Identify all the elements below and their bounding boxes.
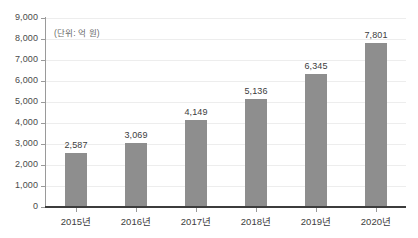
plot-area bbox=[46, 18, 406, 207]
gridline bbox=[46, 60, 406, 61]
y-axis-tick-label: 8,000 bbox=[0, 33, 38, 43]
gridline bbox=[46, 18, 406, 19]
x-axis-tick bbox=[256, 208, 257, 212]
y-axis-tick-label: 1,000 bbox=[0, 180, 38, 190]
bar bbox=[125, 143, 147, 207]
x-axis-tick bbox=[376, 208, 377, 212]
y-axis-tick bbox=[41, 123, 45, 124]
gridline bbox=[46, 123, 406, 124]
y-axis-tick bbox=[41, 39, 45, 40]
y-axis-tick bbox=[41, 207, 45, 208]
y-axis-tick-label: 4,000 bbox=[0, 117, 38, 127]
bar-value-label: 7,801 bbox=[346, 30, 406, 40]
bar bbox=[365, 43, 387, 207]
x-axis-line bbox=[45, 206, 406, 208]
y-axis-tick bbox=[41, 18, 45, 19]
gridline bbox=[46, 186, 406, 187]
bar bbox=[185, 120, 207, 207]
bar bbox=[305, 74, 327, 207]
y-axis-tick-label: 3,000 bbox=[0, 138, 38, 148]
y-axis-tick-label: 7,000 bbox=[0, 54, 38, 64]
gridline bbox=[46, 165, 406, 166]
bar bbox=[65, 153, 87, 207]
bar-chart: 01,0002,0003,0004,0005,0006,0007,0008,00… bbox=[0, 0, 418, 238]
y-axis-line bbox=[45, 17, 46, 208]
bar-value-label: 5,136 bbox=[226, 86, 286, 96]
bar-value-label: 2,587 bbox=[46, 140, 106, 150]
y-axis-tick-label: 2,000 bbox=[0, 159, 38, 169]
x-axis-tick bbox=[196, 208, 197, 212]
y-axis-tick-label: 5,000 bbox=[0, 96, 38, 106]
y-axis-tick bbox=[41, 60, 45, 61]
y-axis-tick bbox=[41, 102, 45, 103]
y-axis-tick bbox=[41, 165, 45, 166]
y-axis-tick-label: 6,000 bbox=[0, 75, 38, 85]
y-axis-tick bbox=[41, 81, 45, 82]
x-axis-tick-label: 2020년 bbox=[346, 214, 406, 228]
gridline bbox=[46, 81, 406, 82]
y-axis-tick-label: 9,000 bbox=[0, 12, 38, 22]
gridline bbox=[46, 102, 406, 103]
bar-value-label: 6,345 bbox=[286, 61, 346, 71]
x-axis-tick-label: 2019년 bbox=[286, 214, 346, 228]
unit-label: (단위: 억 원) bbox=[54, 26, 100, 38]
x-axis-tick bbox=[316, 208, 317, 212]
x-axis-tick bbox=[76, 208, 77, 212]
x-axis-tick bbox=[136, 208, 137, 212]
x-axis-tick-label: 2017년 bbox=[166, 214, 226, 228]
bar-value-label: 4,149 bbox=[166, 107, 226, 117]
y-axis-tick-label: 0 bbox=[0, 201, 38, 211]
bar bbox=[245, 99, 267, 207]
y-axis-tick bbox=[41, 186, 45, 187]
bar-value-label: 3,069 bbox=[106, 130, 166, 140]
x-axis-tick-label: 2016년 bbox=[106, 214, 166, 228]
x-axis-tick-label: 2018년 bbox=[226, 214, 286, 228]
y-axis-tick bbox=[41, 144, 45, 145]
x-axis-tick-label: 2015년 bbox=[46, 214, 106, 228]
